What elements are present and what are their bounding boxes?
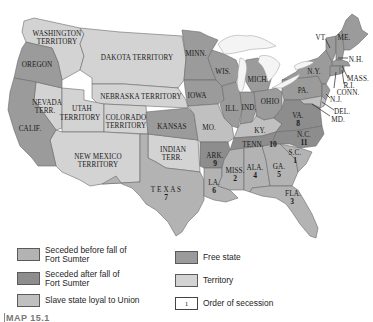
secession-order-sc: 1 — [293, 156, 297, 165]
label-nevada-2: TERR. — [35, 107, 56, 115]
label-nh: N.H. — [349, 56, 363, 64]
label-del: DEL. — [334, 108, 350, 116]
legend-order-of-secession: 1 Order of secession — [175, 297, 273, 310]
secession-order-texas: 7 — [164, 193, 168, 202]
legend-seceded-before: Seceded before fall of Fort Sumter — [17, 246, 126, 263]
legend-label: Fort Sumter — [45, 255, 126, 264]
label-indian: INDIAN — [160, 146, 187, 154]
massachusetts — [332, 60, 350, 66]
secession-order-va: 8 — [296, 119, 300, 128]
secession-order-ga: 5 — [277, 170, 281, 179]
secession-order-miss: 2 — [233, 174, 237, 183]
secession-order-ala: 4 — [253, 171, 257, 180]
label-nevada: NEVADA — [32, 99, 63, 107]
secession-order-ark: 9 — [213, 159, 217, 168]
label-pa: PA. — [298, 87, 309, 95]
lake-michigan — [238, 58, 247, 92]
label-kansas: KANSAS — [157, 123, 186, 131]
swatch-seceded-after — [17, 272, 40, 285]
legend-label: Free state — [203, 253, 241, 262]
legend-label: Territory — [203, 276, 233, 285]
civil-war-secession-map: WASHINGTON TERRITORY OREGON DAKOTA TERRI… — [0, 0, 373, 240]
label-ny: N.Y. — [307, 68, 321, 76]
label-nj: N.J. — [330, 96, 342, 104]
label-mo: MO. — [202, 124, 216, 132]
label-utah: UTAH — [72, 105, 92, 113]
swatch-order-number: 1 — [175, 297, 198, 310]
caption-divider — [4, 313, 5, 322]
legend-slave-loyal: Slave state loyal to Union — [17, 294, 140, 307]
secession-order-tenn: 10 — [269, 140, 277, 149]
label-calif: CALIF. — [19, 125, 42, 133]
legend-label: Slave state loyal to Union — [45, 296, 140, 305]
label-dakota: DAKOTA TERRITORY — [101, 54, 174, 62]
label-ky: KY. — [254, 127, 266, 135]
label-iowa: IOWA — [187, 92, 207, 100]
label-washington: WASHINGTON — [33, 30, 82, 38]
label-utah-2: TERRITORY — [60, 114, 101, 122]
label-new-mexico: NEW MEXICO — [74, 153, 121, 161]
legend-free-state: Free state — [175, 251, 241, 264]
swatch-territory — [175, 274, 198, 287]
label-oregon: OREGON — [22, 61, 53, 69]
swatch-free-state — [175, 251, 198, 264]
label-indian-2: TERR. — [162, 154, 183, 162]
label-vt: VT. — [315, 34, 326, 42]
maine — [342, 14, 368, 50]
label-ohio: OHIO — [261, 98, 279, 106]
label-nebraska: NEBRASKA TERRITORY — [100, 93, 182, 101]
florida — [250, 186, 318, 238]
label-colorado: COLORADO — [106, 114, 147, 122]
legend-label: Fort Sumter — [45, 279, 120, 288]
label-ind: IND. — [242, 104, 257, 112]
label-wis: WIS. — [215, 68, 230, 76]
label-tenn: TENN. — [242, 141, 264, 149]
label-ill: ILL. — [225, 105, 238, 113]
swatch-slave-loyal — [17, 294, 40, 307]
label-md: MD. — [331, 116, 345, 124]
legend-label: Order of secession — [203, 299, 273, 308]
secession-order-fla: 3 — [290, 197, 294, 206]
lake-superior — [218, 35, 276, 54]
secession-order-nc: 11 — [300, 138, 307, 147]
label-mich: MICH. — [247, 76, 268, 84]
label-colorado-2: TERRITORY — [106, 122, 147, 130]
label-new-mexico-2: TERRITORY — [78, 161, 119, 169]
connecticut — [330, 66, 340, 76]
label-washington-2: TERRITORY — [37, 38, 78, 46]
legend-seceded-after: Seceded after fall of Fort Sumter — [17, 270, 120, 287]
legend-territory: Territory — [175, 274, 233, 287]
map-caption: MAP 15.1 — [6, 313, 50, 322]
swatch-seceded-before — [17, 248, 40, 261]
map-legend: Seceded before fall of Fort Sumter Seced… — [0, 240, 373, 322]
secession-order-la: 6 — [212, 186, 216, 195]
label-me: ME. — [338, 34, 351, 42]
label-minn: MINN. — [185, 50, 207, 58]
